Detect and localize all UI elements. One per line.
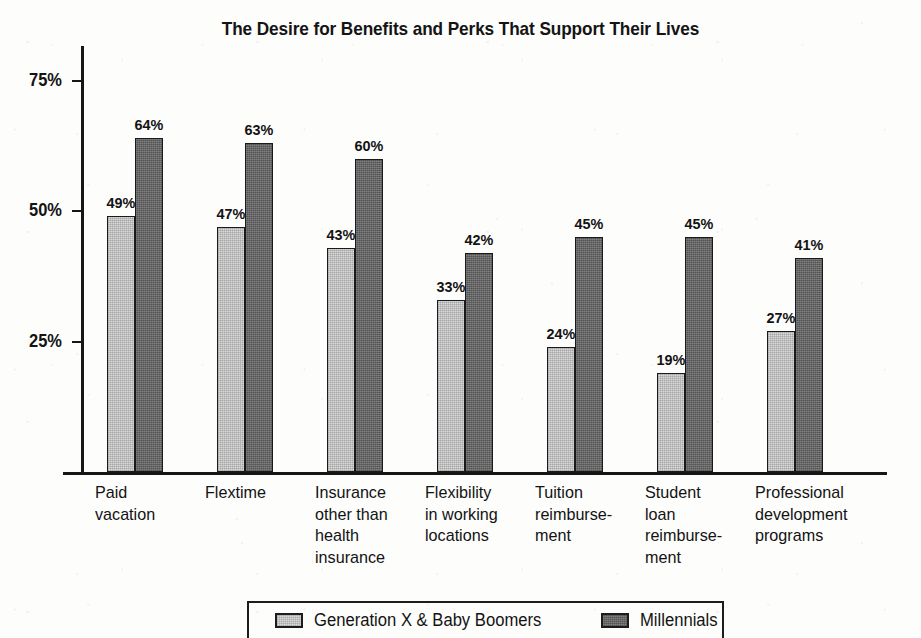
plot-area: 49%64%47%63%43%60%33%42%24%45%19%45%27%4… <box>81 46 887 474</box>
legend-swatch-icon-millennials <box>601 613 629 628</box>
y-axis-tick-label: 25% <box>4 331 62 352</box>
bar-value-label: 45% <box>678 215 721 233</box>
bar-generation-x[interactable] <box>437 300 465 472</box>
bar-millennials[interactable] <box>465 253 493 472</box>
bar-millennials[interactable] <box>795 258 823 472</box>
bar-value-label: 42% <box>458 231 501 249</box>
bar-generation-x[interactable] <box>657 373 685 472</box>
bar-millennials[interactable] <box>245 143 273 472</box>
bar-generation-x[interactable] <box>107 216 135 472</box>
chart-title: The Desire for Benefits and Perks That S… <box>32 18 889 40</box>
y-axis-tick-label: 75% <box>4 70 62 91</box>
bar-value-label: 41% <box>788 236 831 254</box>
y-axis-tick <box>72 80 82 82</box>
x-axis-category-label: Flexibility in working locations <box>425 482 498 547</box>
y-axis-tick <box>72 210 82 212</box>
y-axis-tick <box>72 341 82 343</box>
legend-item-generation-x-baby-boomers[interactable]: Generation X & Baby Boomers <box>275 610 553 631</box>
bar-millennials[interactable] <box>135 138 163 472</box>
bar-generation-x[interactable] <box>217 227 245 472</box>
x-axis-category-label: Student loan reimburse- ment <box>645 482 722 568</box>
y-axis-line <box>81 46 84 474</box>
legend-label-millennials: Millennials <box>640 610 718 631</box>
bar-generation-x[interactable] <box>327 248 355 472</box>
legend-item-millennials[interactable]: Millennials <box>601 610 722 631</box>
x-axis-category-label: Flextime <box>205 482 266 504</box>
bar-millennials[interactable] <box>575 237 603 472</box>
bar-value-label: 63% <box>238 121 281 139</box>
bar-value-label: 64% <box>128 116 171 134</box>
bar-millennials[interactable] <box>685 237 713 472</box>
x-axis-category-label: Paid vacation <box>95 482 155 525</box>
bar-value-label: 45% <box>568 215 611 233</box>
bar-millennials[interactable] <box>355 159 383 472</box>
x-axis-category-label: Insurance other than health insurance <box>315 482 388 568</box>
y-axis-tick-label: 50% <box>4 200 62 221</box>
bar-generation-x[interactable] <box>547 347 575 472</box>
chart-legend: Generation X & Baby Boomers Millennials <box>247 601 724 638</box>
bar-generation-x[interactable] <box>767 331 795 472</box>
legend-label-generation-x: Generation X & Baby Boomers <box>314 610 541 631</box>
legend-swatch-icon-generation-x <box>275 613 303 628</box>
x-axis-line <box>63 472 887 475</box>
x-axis-category-label: Tuition reimburse- ment <box>535 482 612 547</box>
x-axis-category-label: Professional development programs <box>755 482 847 547</box>
bar-value-label: 60% <box>348 137 391 155</box>
